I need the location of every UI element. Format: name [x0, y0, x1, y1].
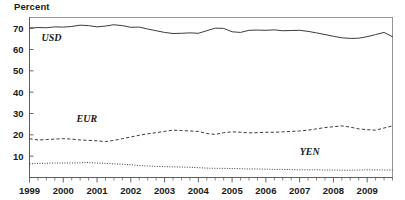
series-label-yen: YEN — [300, 146, 321, 157]
series-label-usd: USD — [41, 32, 61, 43]
x-tick-label: 1999 — [19, 185, 40, 196]
x-tick-label: 2003 — [154, 185, 175, 196]
series-label-eur: EUR — [76, 113, 98, 124]
series-line-eur — [30, 126, 393, 142]
y-tick-label: 60 — [13, 44, 24, 55]
y-tick-label: 10 — [13, 151, 24, 162]
y-tick-label: 40 — [13, 87, 24, 98]
x-tick-label: 2000 — [53, 185, 74, 196]
x-tick-label: 2009 — [357, 185, 378, 196]
series-line-yen — [30, 163, 393, 171]
x-tick-label: 2006 — [255, 185, 276, 196]
y-tick-label: 50 — [13, 65, 24, 76]
plot-border — [30, 18, 393, 178]
y-tick-label: 20 — [13, 129, 24, 140]
x-axis-ticks: 1999200020012002200320042005200620072008… — [19, 178, 393, 196]
chart-figure: Percent 10203040506070 19992000200120022… — [0, 0, 405, 200]
x-tick-label: 2001 — [86, 185, 108, 196]
y-axis-ticks: 10203040506070 — [13, 23, 34, 162]
x-tick-label: 2005 — [222, 185, 244, 196]
chart-plot-area: 10203040506070 1999200020012002200320042… — [0, 0, 405, 200]
x-tick-label: 2008 — [323, 185, 344, 196]
x-tick-label: 2002 — [120, 185, 141, 196]
y-tick-label: 30 — [13, 108, 24, 119]
x-tick-label: 2007 — [289, 185, 310, 196]
series-line-usd — [30, 25, 393, 39]
plot-frame — [30, 18, 393, 178]
series-annotations: USDEURYEN — [41, 32, 320, 157]
data-series-group — [30, 25, 393, 171]
y-tick-label: 70 — [13, 23, 24, 34]
x-tick-label: 2004 — [188, 185, 210, 196]
